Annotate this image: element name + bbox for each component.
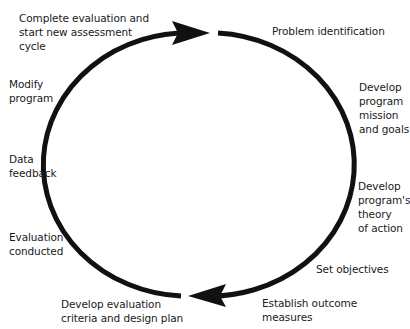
step-develop-theory-of-action: Develop program's theory of action	[358, 179, 410, 235]
right-arc	[200, 33, 354, 296]
step-modify-program: Modify program	[9, 77, 53, 105]
step-develop-mission-goals: Develop program mission and goals	[359, 80, 409, 136]
step-establish-outcome-measures: Establish outcome measures	[262, 296, 357, 324]
step-data-feedback: Data feedback	[9, 152, 56, 180]
step-problem-identification: Problem identification	[272, 24, 385, 38]
step-evaluation-conducted: Evaluation conducted	[9, 230, 63, 258]
step-complete-evaluation: Complete evaluation and start new assess…	[19, 11, 149, 53]
step-set-objectives: Set objectives	[316, 262, 389, 276]
step-develop-evaluation-criteria: Develop evaluation criteria and design p…	[61, 297, 183, 325]
evaluation-cycle-diagram: Problem identification Develop program m…	[0, 0, 410, 329]
left-arc	[43, 33, 196, 296]
